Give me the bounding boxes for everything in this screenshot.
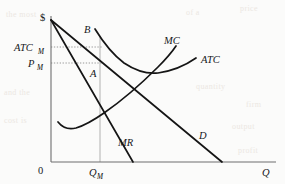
bleed-mark: output [232,122,255,131]
curve-label-mc: MC [163,35,181,46]
x-axis-label: Q [262,167,270,178]
bleed-mark: the most [6,10,37,19]
bleed-mark: quantity [196,82,225,91]
economics-figure: $ 0 Q ATC M P M Q M MC ATC MR D B A the … [0,0,285,184]
bleed-mark: firm [246,100,261,109]
y-tick-atc-m: ATC M [13,42,45,56]
y-tick-p-m-subscript: M [36,64,44,72]
y-tick-p-m: P M [27,58,44,72]
average-total-cost-curve [95,29,196,73]
curve-label-d: D [198,130,207,141]
bleed-mark: price [240,4,258,13]
marginal-cost-curve [58,46,176,129]
x-tick-q-m-subscript: M [96,173,104,181]
y-tick-atc-m-subscript: M [37,48,45,56]
bleed-mark: cost is [4,116,27,125]
point-label-a: A [89,68,97,79]
bleed-mark: and the [4,88,30,97]
x-tick-q-m: Q M [89,167,104,181]
curve-label-atc: ATC [200,54,221,65]
y-tick-atc-m-text: ATC [13,42,34,53]
point-label-b: B [84,24,91,35]
y-tick-p-m-text: P [27,58,35,69]
bleed-mark: of a [186,8,200,17]
demand-curve [51,20,222,162]
bleed-mark: profit [238,146,258,155]
x-tick-q-m-text: Q [89,167,97,178]
origin-label: 0 [38,165,43,176]
y-axis-label: $ [40,12,45,23]
curve-label-mr: MR [117,137,134,148]
figure-canvas: $ 0 Q ATC M P M Q M MC ATC MR D B A [0,0,285,184]
